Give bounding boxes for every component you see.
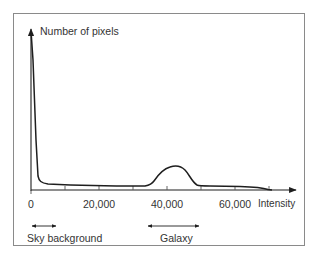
- histogram-curve: [31, 31, 272, 190]
- histogram-chart: [0, 0, 317, 260]
- y-axis-label: Number of pixels: [40, 25, 119, 37]
- x-tick-label-40000: 40,000: [151, 198, 183, 210]
- galaxy-label: Galaxy: [160, 232, 193, 244]
- sky-background-label: Sky background: [27, 232, 102, 244]
- x-tick-label-60000: 60,000: [219, 198, 251, 210]
- x-axis-label: Intensity: [258, 198, 295, 209]
- x-tick-label-0: 0: [28, 198, 34, 210]
- x-tick-label-20000: 20,000: [83, 198, 115, 210]
